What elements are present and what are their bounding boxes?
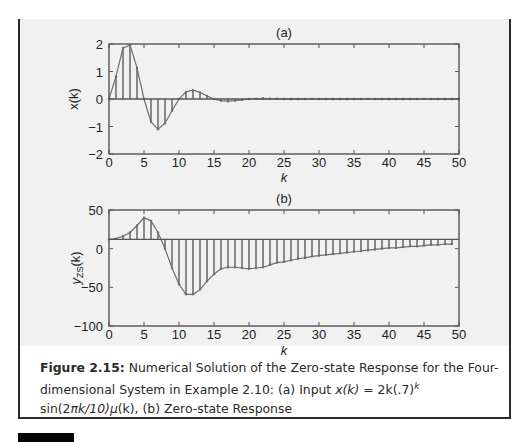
data-marker (262, 266, 264, 268)
data-marker (122, 235, 124, 237)
data-marker (311, 255, 313, 257)
data-marker (269, 264, 271, 266)
data-marker (234, 266, 236, 268)
data-marker (451, 243, 453, 245)
y-tick-label: 0 (96, 92, 103, 107)
data-marker (395, 247, 397, 249)
data-marker (234, 99, 236, 101)
data-marker (136, 224, 138, 226)
x-tick-label: 50 (452, 155, 466, 170)
x-tick-label: 35 (347, 155, 361, 170)
axes-box (109, 210, 459, 326)
y-tick-label: 1 (96, 65, 103, 80)
data-marker (171, 110, 173, 112)
x-axis-label: k (281, 343, 289, 358)
y-axis-label: yZS(k) (68, 251, 85, 285)
y-axis-label: x(k) (66, 88, 81, 110)
data-curve (109, 45, 459, 129)
data-marker (150, 220, 152, 222)
data-marker (241, 267, 243, 269)
data-marker (220, 99, 222, 101)
x-tick-label: 20 (242, 327, 256, 342)
data-marker (178, 283, 180, 285)
data-marker (297, 258, 299, 260)
data-marker (255, 267, 257, 269)
x-tick-label: 10 (172, 327, 186, 342)
data-marker (185, 91, 187, 93)
data-marker (402, 246, 404, 248)
y-tick-label: 50 (89, 203, 103, 218)
x-tick-label: 20 (242, 155, 256, 170)
x-tick-label: 35 (347, 327, 361, 342)
x-tick-label: 0 (105, 327, 112, 342)
caption-line-2: dimensional System in Example 2.10: (a) … (40, 377, 500, 399)
data-marker (437, 244, 439, 246)
data-marker (367, 249, 369, 251)
data-marker (388, 247, 390, 249)
data-marker (346, 251, 348, 253)
data-marker (227, 100, 229, 102)
data-marker (199, 91, 201, 93)
data-marker (248, 268, 250, 270)
data-marker (304, 257, 306, 259)
x-tick-label: 40 (382, 327, 396, 342)
data-marker (136, 67, 138, 69)
data-marker (360, 250, 362, 252)
x-tick-label: 50 (452, 327, 466, 342)
y-tick-label: −2 (88, 147, 103, 162)
caption-line-3: sin(2πk/10)μ(k), (b) Zero-state Response (40, 399, 500, 418)
data-marker (164, 122, 166, 124)
x-tick-label: 10 (172, 155, 186, 170)
subplot-title: (b) (276, 191, 292, 206)
x-tick-label: 25 (277, 155, 291, 170)
x-tick-label: 30 (312, 155, 326, 170)
data-curve (109, 218, 452, 295)
page-edge-marker (18, 433, 74, 442)
data-marker (122, 47, 124, 49)
data-marker (206, 95, 208, 97)
x-tick-label: 5 (140, 327, 147, 342)
data-marker (332, 253, 334, 255)
data-marker (192, 89, 194, 91)
data-marker (381, 247, 383, 249)
data-marker (157, 231, 159, 233)
data-marker (171, 267, 173, 269)
data-marker (430, 244, 432, 246)
subplot-title: (a) (276, 25, 292, 40)
data-marker (129, 231, 131, 233)
x-tick-label: 45 (417, 155, 431, 170)
data-marker (199, 288, 201, 290)
data-marker (185, 293, 187, 295)
figure-label: Figure 2.15: (40, 360, 125, 375)
data-marker (192, 293, 194, 295)
data-marker (220, 268, 222, 270)
data-marker (339, 252, 341, 254)
data-marker (409, 245, 411, 247)
x-axis-label: k (281, 170, 289, 185)
data-marker (143, 217, 145, 219)
data-marker (318, 254, 320, 256)
x-tick-label: 0 (105, 155, 112, 170)
data-marker (374, 248, 376, 250)
data-marker (423, 244, 425, 246)
data-marker (325, 254, 327, 256)
y-tick-label: −50 (81, 280, 103, 295)
data-marker (290, 259, 292, 261)
data-marker (353, 251, 355, 253)
x-tick-label: 25 (277, 327, 291, 342)
caption-line-1: Figure 2.15: Numerical Solution of the Z… (40, 358, 500, 377)
data-marker (444, 243, 446, 245)
y-tick-label: −100 (74, 319, 103, 334)
y-tick-label: 2 (96, 37, 103, 52)
x-tick-label: 30 (312, 327, 326, 342)
data-marker (276, 261, 278, 263)
x-tick-label: 5 (140, 155, 147, 170)
data-marker (115, 75, 117, 77)
x-tick-label: 15 (207, 155, 221, 170)
data-marker (150, 121, 152, 123)
figure-caption: Figure 2.15: Numerical Solution of the Z… (40, 358, 500, 418)
data-marker (164, 247, 166, 249)
y-tick-label: −1 (88, 120, 103, 135)
data-marker (206, 280, 208, 282)
y-tick-label: 0 (96, 242, 103, 257)
